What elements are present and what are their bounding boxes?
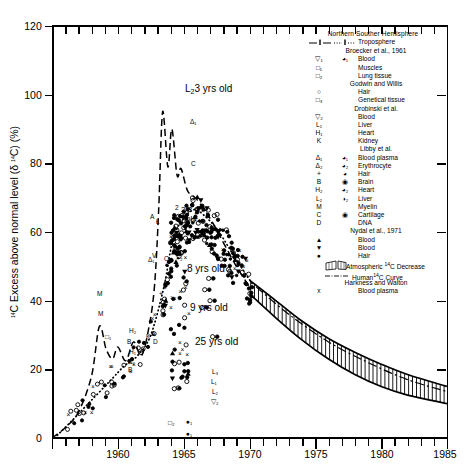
legend-item-label: Blood (358, 55, 375, 63)
legend-item-label: Erythrocyte (358, 162, 391, 170)
legend-symbol-north: M (308, 203, 330, 211)
point-label-16: L₂ (212, 388, 218, 395)
legend-row-26: ●Hair (300, 252, 452, 260)
annotation-L2-3yrs: L23 yrs old (185, 83, 232, 95)
legend-symbol-north: Δ₂ (308, 162, 330, 170)
legend-symbol-north: ▽₁ (308, 55, 330, 63)
legend-row-8: Drobinski et al. (300, 105, 452, 113)
svg-text:×: × (233, 265, 237, 272)
legend-troposphere-label: Troposphere (358, 38, 395, 46)
legend-symbol-north: K (308, 137, 330, 145)
legend-row-6: ○Hair (300, 88, 452, 96)
legend-symbol-north: ● (308, 252, 330, 260)
legend-symbol-south: ◉ (334, 211, 356, 219)
legend-item-label: Brain (358, 178, 373, 186)
legend-symbol-south: ◕₂ (334, 162, 356, 170)
legend-row-13: Libby et al. (300, 145, 452, 153)
legend-symbol-south: ◕ (334, 170, 356, 178)
legend-item-label: Blood (358, 244, 375, 252)
legend-row-18: H₂◕₂Heart (300, 186, 452, 194)
legend-row-14: Δ₁◕₁Blood plasma (300, 154, 452, 162)
legend-row-4: □₂Lung tissue (300, 72, 452, 80)
legend-row-10: L₁Liver (300, 121, 452, 129)
legend-item-label: Hair (358, 252, 370, 260)
svg-text:×: × (66, 411, 70, 418)
legend-row-24: ▲Blood (300, 236, 452, 244)
ann-l2-text: 3 yrs old (194, 83, 232, 94)
point-label-11: B (128, 366, 132, 373)
legend-symbol-north: C (308, 211, 330, 219)
legend-item-label: Muscles (358, 64, 382, 72)
legend-row-11: H₁Heart (300, 129, 452, 137)
legend-group-title: Libby et al. (300, 145, 452, 153)
chart-root: 120 100 80 60 40 20 0 14C Excess above n… (0, 0, 465, 466)
point-label-15: L₁ (211, 378, 217, 385)
annotation-2-3yrs-line1: 2 3 yrs (181, 205, 205, 214)
legend-row-25: ▼Blood (300, 244, 452, 252)
legend-row-28: Human14C Curve (300, 271, 452, 279)
human-curve-icon (324, 273, 350, 279)
legend-item-label: Blood (358, 236, 375, 244)
annotation-9yrs: 9 yrs old (190, 302, 228, 313)
point-label-20: ●₁ (186, 418, 192, 425)
legend-item-label: Genetical tissue (358, 96, 405, 104)
legend-symbol-north: D (308, 219, 330, 227)
svg-text:×: × (242, 263, 246, 270)
legend-symbol-south: ◑₂ (334, 195, 356, 203)
legend-item-label: Heart (358, 186, 374, 194)
legend-symbol-north: ▼ (308, 244, 330, 252)
chart-legend: Northern Souther Hemisphere TroposphereB… (300, 30, 452, 296)
legend-row-17: B◉Brain (300, 178, 452, 186)
legend-row-19: L₂◑₂Liver (300, 195, 452, 203)
legend-row-2: ▽₁◕₁Blood (300, 55, 452, 63)
legend-item-label: Liver (358, 121, 372, 129)
point-label-18: ▽₂ (211, 398, 219, 406)
svg-text:×: × (151, 315, 155, 322)
point-label-23: + (159, 290, 163, 297)
legend-symbol-north: x (308, 287, 330, 295)
point-label-0: Δ₁ (190, 118, 197, 125)
point-label-3: O₁ (164, 255, 171, 262)
legend-row-0: Troposphere (300, 38, 452, 47)
legend-item-label: Blood (358, 113, 375, 121)
legend-row-1: Broecker et al., 1961 (300, 47, 452, 55)
point-label-14: K (146, 333, 150, 340)
troposphere-line-icon (308, 38, 356, 46)
legend-row-29: Harkness and Walton (300, 279, 452, 287)
legend-item-label: Blood plasma (358, 154, 398, 162)
point-label-12: D (153, 338, 158, 345)
legend-symbol-north: H₂ (308, 186, 330, 194)
legend-item-label: Hair (358, 88, 370, 96)
svg-text:×: × (184, 254, 188, 261)
legend-symbol-north: L₁ (308, 121, 330, 129)
point-label-5: C (191, 160, 196, 167)
legend-symbol-south: ◕₁ (334, 55, 356, 63)
legend-item-label: Kidney (358, 137, 378, 145)
legend-group-title: Godwin and Willis (300, 80, 452, 88)
legend-symbol-north: □₁ (308, 64, 330, 72)
svg-text:×: × (169, 304, 173, 311)
svg-text:×: × (110, 363, 114, 370)
point-label-17: L₃ (212, 368, 218, 375)
legend-row-20: MMyelin (300, 203, 452, 211)
svg-text:×: × (90, 409, 94, 416)
legend-row-16: +◕Hair (300, 170, 452, 178)
legend-row-15: Δ₂◕₂Erythrocyte (300, 162, 452, 170)
legend-row-23: Nydal et al., 1971 (300, 227, 452, 235)
legend-item-label: Heart (358, 129, 374, 137)
svg-text:×: × (238, 247, 242, 254)
legend-row-9: ▽₂Blood (300, 113, 452, 121)
legend-row-30: xBlood plasma (300, 287, 452, 295)
legend-row-27: Atmospheric 14C Decrease (300, 260, 452, 271)
point-label-19: □₂ (168, 419, 174, 426)
legend-row-5: Godwin and Willis (300, 80, 452, 88)
point-label-21: ●₁ (186, 430, 192, 437)
point-label-22: □₁ (105, 333, 111, 340)
svg-text:×: × (91, 383, 95, 390)
legend-header: Northern Souther Hemisphere (294, 30, 452, 38)
point-label-10: B (127, 338, 131, 345)
legend-symbol-south: ◉ (334, 178, 356, 186)
legend-item-label: Myelin (358, 203, 377, 211)
legend-item-label: DNA (358, 219, 372, 227)
legend-group-title: Broecker et al., 1961 (300, 47, 452, 55)
